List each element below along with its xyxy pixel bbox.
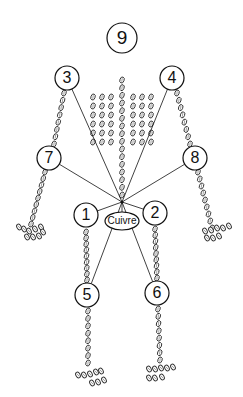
node-9-label: 9 <box>107 28 137 50</box>
connector-line-3 <box>72 89 122 202</box>
node-6-label: 6 <box>145 285 169 303</box>
center-cuivre-label: Cuivre <box>105 216 139 228</box>
node-8-label: 8 <box>183 150 207 168</box>
connector-line-4 <box>122 89 168 202</box>
connector-line-2 <box>122 202 144 209</box>
node-3-label: 3 <box>55 70 79 88</box>
node-7-label: 7 <box>37 150 61 168</box>
node-4-label: 4 <box>160 70 184 88</box>
connector-line-7 <box>59 164 122 202</box>
node-1-label: 1 <box>74 207 98 225</box>
node-5-label: 5 <box>75 287 99 305</box>
connector-line-8 <box>122 164 185 202</box>
hub-dot <box>121 201 124 204</box>
connector-line-1 <box>97 202 122 211</box>
diagram-canvas <box>0 0 243 397</box>
skeleton-diagram: 9 3 4 7 8 1 2 5 6 Cuivre <box>0 0 243 397</box>
node-2-label: 2 <box>143 205 167 223</box>
bead-skeleton <box>16 76 233 386</box>
